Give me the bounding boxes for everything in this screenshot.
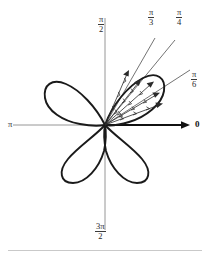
axis-label-pi-over-6: π 6 (191, 70, 197, 91)
petal-upper-left (45, 82, 105, 126)
axis-zero-arrowhead (181, 121, 190, 128)
three-pi-over-2-denominator: 2 (95, 232, 106, 241)
petal-lower-right (104, 125, 148, 183)
axis-label-zero: 0 (195, 119, 200, 129)
pi-over-6-denominator: 6 (191, 80, 197, 89)
angle-rays (105, 38, 190, 125)
axis-label-three-pi-over-2: 3π 2 (95, 222, 106, 243)
axis-label-pi-over-3: π 3 (148, 8, 154, 29)
bottom-divider (8, 250, 202, 251)
axis-label-pi-over-2: π 2 (98, 15, 104, 36)
petal-upper-right (105, 75, 164, 125)
ray-pi-over-6 (105, 70, 190, 125)
axis-label-pi: π (8, 119, 12, 129)
pi-over-4-denominator: 4 (176, 18, 182, 27)
ray-pi-over-3 (105, 38, 155, 125)
pi-over-3-denominator: 3 (148, 18, 154, 27)
rose-curve (45, 75, 165, 183)
radial-vectors (105, 70, 163, 125)
petal-lower-left (62, 125, 106, 183)
axis-label-pi-over-4: π 4 (176, 8, 182, 29)
pi-over-2-denominator: 2 (98, 25, 104, 34)
polar-axes (13, 18, 190, 230)
